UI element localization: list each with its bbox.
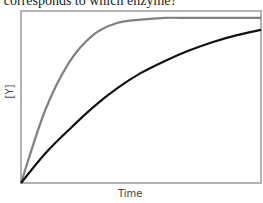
black-curve [21,30,261,183]
gray-curve [21,18,261,183]
x-axis-label: Time [118,188,142,199]
y-axis-label: [Y] [4,85,15,99]
line-chart [0,0,263,203]
plot-frame [21,11,261,183]
